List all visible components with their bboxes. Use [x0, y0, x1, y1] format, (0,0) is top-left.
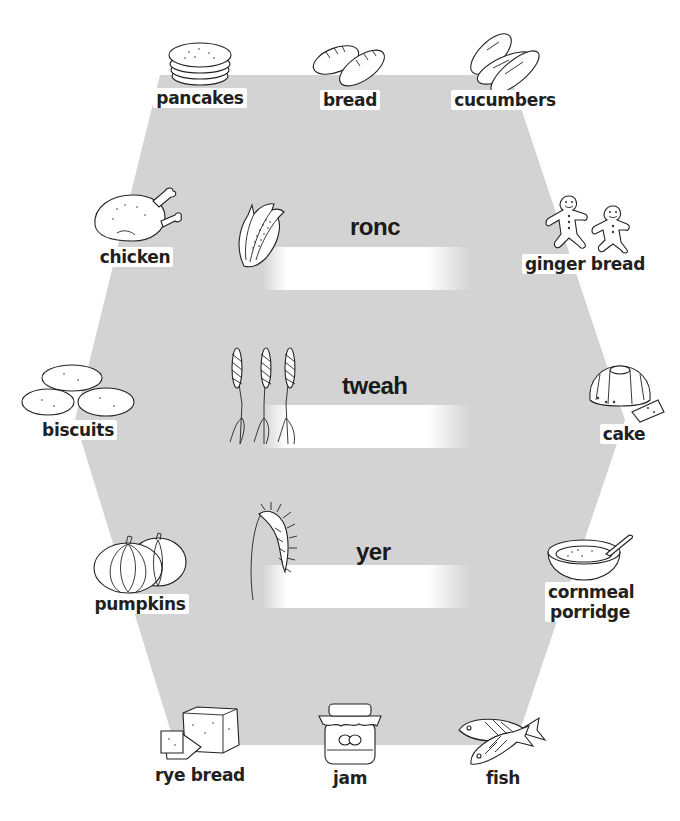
food-item-bread: bread: [295, 38, 405, 110]
food-label: pumpkins: [91, 594, 188, 614]
food-item-jam: jam: [305, 700, 395, 788]
food-label: biscuits: [39, 420, 117, 440]
food-item-pancakes: pancakes: [140, 40, 260, 108]
food-label: cucumbers: [451, 90, 559, 110]
rye-ear-icon: [245, 502, 305, 602]
food-item-rye-bread: rye bread: [145, 703, 255, 785]
fish-icon: [455, 712, 551, 768]
food-label: ginger bread: [522, 254, 648, 274]
pumpkins-icon: [90, 532, 190, 594]
roast-chicken-icon: [87, 185, 183, 247]
food-item-fish: fish: [448, 712, 558, 788]
porridge-bowl-icon: [542, 532, 638, 582]
food-item-ginger-bread: ginger bread: [515, 192, 655, 274]
food-item-biscuits: biscuits: [8, 362, 148, 440]
wheat-stalks-icon: [224, 344, 310, 448]
biscuits-icon: [20, 362, 136, 420]
gingerbread-men-icon: [535, 192, 635, 254]
jam-jar-icon: [315, 700, 385, 768]
food-label: cake: [600, 424, 649, 444]
corn-cob-icon: [230, 200, 300, 270]
bundt-cake-icon: [582, 360, 666, 424]
food-item-chicken: chicken: [80, 185, 190, 267]
cucumbers-icon: [465, 28, 545, 90]
food-item-cornmeal-porridge: cornmeal porridge: [520, 532, 660, 622]
scrambled-word-yer: yer: [356, 538, 391, 566]
food-label: pancakes: [153, 88, 246, 108]
food-label: cornmeal porridge: [545, 582, 635, 622]
food-label: bread: [320, 90, 380, 110]
food-label: rye bread: [152, 765, 248, 785]
scrambled-word-tweah: tweah: [342, 372, 408, 400]
food-label: jam: [330, 768, 370, 788]
food-item-cucumbers: cucumbers: [440, 28, 570, 110]
food-item-pumpkins: pumpkins: [75, 532, 205, 614]
scrambled-word-ronc: ronc: [350, 213, 400, 241]
pancakes-icon: [167, 40, 233, 88]
bread-loaves-icon: [310, 38, 390, 90]
food-item-cake: cake: [578, 360, 670, 444]
rye-bread-loaf-icon: [157, 703, 243, 765]
food-label: fish: [483, 768, 523, 788]
food-label: chicken: [97, 247, 173, 267]
